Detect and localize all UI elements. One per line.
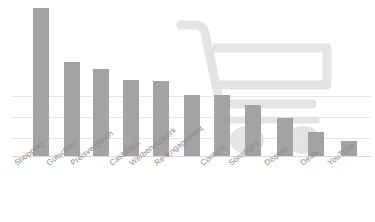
bar-shopping — [33, 8, 49, 156]
chart-canvas: Shopping Gutschein Preisvergleich Cashba… — [0, 0, 375, 222]
bar-chart: Shopping Gutschein Preisvergleich Cashba… — [0, 0, 375, 222]
plot-area: Shopping Gutschein Preisvergleich Cashba… — [0, 0, 375, 222]
